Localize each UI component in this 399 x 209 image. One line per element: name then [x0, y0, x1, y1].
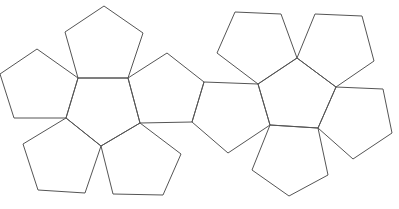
pentagon-face-left-top — [65, 6, 143, 78]
pentagon-face-right-top-left — [217, 12, 297, 84]
pentagon-face-left-center — [66, 78, 140, 146]
pentagon-face-left-bottom-right — [101, 123, 181, 195]
pentagon-face-left-left — [0, 49, 78, 118]
pentagon-face-right-bottom — [252, 125, 328, 196]
pentagon-face-right-bridge — [192, 82, 270, 153]
dodecahedron-net-diagram — [0, 0, 399, 209]
pentagon-face-right-center — [258, 58, 336, 128]
pentagon-face-right-top-right — [297, 14, 374, 87]
pentagon-face-left-bottom-left — [23, 118, 101, 193]
pentagon-face-right-right — [318, 87, 392, 159]
pentagon-face-left-right — [128, 53, 204, 123]
